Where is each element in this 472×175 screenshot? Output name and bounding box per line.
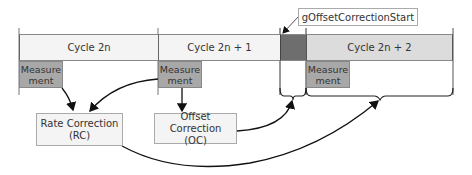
measurement-label: Measure xyxy=(160,64,200,75)
cycle-2n-label: Cycle 2n xyxy=(67,42,110,53)
cycle-2n: Cycle 2n xyxy=(19,34,158,61)
offset-correction-title: Offset Correction xyxy=(170,111,222,134)
offset-segment-brace xyxy=(280,88,306,100)
measurement-label: ment xyxy=(316,75,341,86)
measurement-box-1: Measurement xyxy=(19,61,63,88)
measurement-box-3: Measurement xyxy=(306,61,350,88)
g-offset-correction-start-callout: gOffsetCorrectionStart xyxy=(298,8,418,26)
offset-correction-abbr: (OC) xyxy=(184,135,207,146)
arrow-oc-to-offset xyxy=(237,101,292,131)
cycle-2n-plus-2-label: Cycle 2n + 2 xyxy=(347,42,411,53)
offset-correction-segment xyxy=(280,34,306,61)
cycle-2n-plus-2: Cycle 2n + 2 xyxy=(306,34,453,61)
measurement-label: ment xyxy=(29,75,54,86)
measurement-label: Measure xyxy=(308,64,348,75)
measurement-box-2: Measurement xyxy=(158,61,202,88)
cycle-2n-plus-1-label: Cycle 2n + 1 xyxy=(187,42,251,53)
cycle-2n2-brace xyxy=(306,88,453,100)
callout-pointer xyxy=(283,17,298,33)
offset-correction-box: Offset Correction(OC) xyxy=(154,113,237,144)
cycle-2n-plus-1: Cycle 2n + 1 xyxy=(158,34,280,61)
rate-correction-title: Rate Correction xyxy=(41,118,119,129)
arrow-meas2-to-rc xyxy=(90,79,158,111)
rate-correction-box: Rate Correction(RC) xyxy=(36,113,123,146)
rate-correction-abbr: (RC) xyxy=(69,130,90,141)
measurement-label: ment xyxy=(168,75,193,86)
arrow-meas1-to-rc xyxy=(62,88,73,110)
connector-layer xyxy=(0,0,472,175)
measurement-label: Measure xyxy=(21,64,61,75)
callout-label: gOffsetCorrectionStart xyxy=(302,12,415,23)
